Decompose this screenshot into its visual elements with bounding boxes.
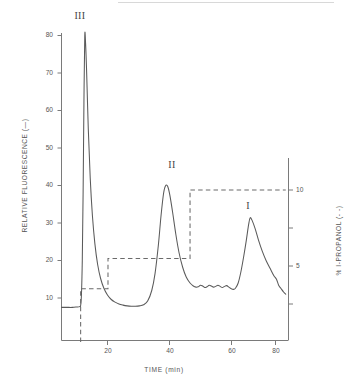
y-axis-title-right: % I-PROPANOL (- -) [335,171,342,311]
x-tick-label: 20 [98,347,118,354]
y-tick-label: 50 [33,144,53,151]
right-axis-ticks [289,190,294,304]
y-tick-label: 40 [33,181,53,188]
x-axis-ticks [108,341,276,346]
y-tick-label: 70 [33,69,53,76]
plot-canvas [0,0,347,392]
right-tick-label: 10 [296,186,316,193]
peak-label-3: III [68,10,92,21]
gradient-trace [81,190,286,342]
y-tick-label: 10 [33,294,53,301]
x-axis-title: TIME (min) [104,366,224,373]
x-tick-label: 60 [222,347,242,354]
peak-label-2: II [160,159,184,170]
y-tick-label: 30 [33,219,53,226]
x-tick-label: 40 [160,347,180,354]
y-tick-label: 60 [33,106,53,113]
right-tick-label: 5 [296,262,316,269]
y-tick-label: 80 [33,31,53,38]
chromatogram-figure: RELATIVE FLUORESCENCE (—) % I-PROPANOL (… [0,0,347,392]
y-axis-ticks [58,36,62,299]
y-tick-label: 20 [33,256,53,263]
peak-label-1: I [236,200,260,211]
x-tick-label: 80 [266,347,286,354]
axis-lines [62,33,289,341]
y-axis-title-left: RELATIVE FLUORESCENCE (—) [21,106,28,246]
